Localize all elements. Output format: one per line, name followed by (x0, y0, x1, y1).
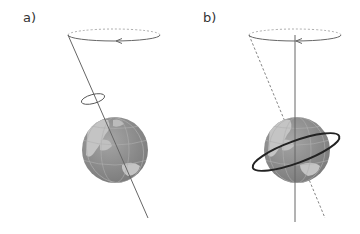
precession-circle-back (68, 29, 160, 35)
precession-circle-front (68, 35, 160, 41)
panel-b (249, 29, 343, 222)
panel-a (68, 29, 160, 218)
precession-circle-back (249, 29, 341, 35)
spin-ring (80, 92, 106, 107)
globe-a (77, 109, 152, 190)
diagram-canvas (0, 0, 360, 234)
